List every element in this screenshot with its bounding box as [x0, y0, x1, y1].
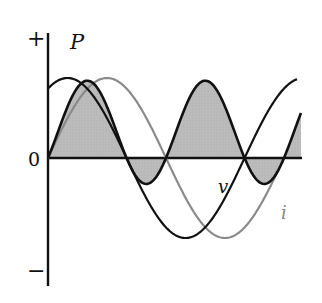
negative-axis-label: −	[27, 260, 45, 282]
power-label: P	[70, 32, 84, 53]
positive-axis-label: +	[27, 28, 45, 50]
power-waveform-diagram: + P 0 − v i	[0, 0, 322, 303]
voltage-label: v	[218, 178, 228, 196]
waveform-plot	[0, 0, 322, 303]
current-label: i	[281, 204, 287, 222]
zero-axis-label: 0	[28, 150, 40, 169]
